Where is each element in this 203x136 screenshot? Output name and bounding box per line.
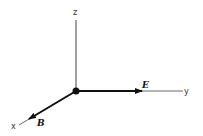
e-vector-label: E — [141, 80, 149, 90]
x-axis-label: x — [11, 122, 16, 131]
b-vector — [29, 91, 76, 119]
origin-point — [73, 88, 80, 95]
z-axis-label: z — [73, 8, 77, 17]
b-vector-label: B — [36, 118, 45, 128]
coordinate-diagram: z y E x B — [0, 0, 203, 136]
y-axis-label: y — [184, 87, 189, 96]
